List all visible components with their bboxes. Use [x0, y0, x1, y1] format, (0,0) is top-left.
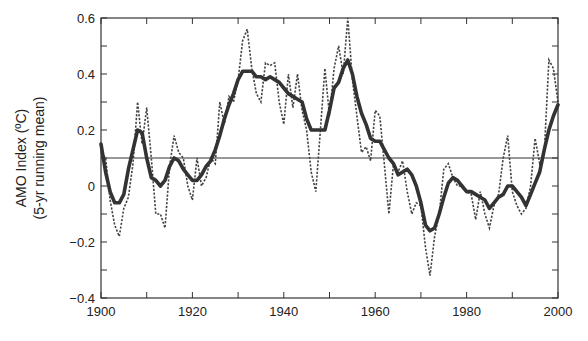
y-tick-label: −0.4 — [69, 291, 95, 306]
y-axis-title-line2: (5-yr running mean) — [31, 97, 47, 220]
y-tick-label: 0.4 — [77, 67, 95, 82]
x-tick-label: 1900 — [87, 304, 116, 319]
y-tick-label: 0 — [88, 179, 95, 194]
y-tick-label: −0.2 — [69, 235, 95, 250]
x-tick-label: 1960 — [361, 304, 390, 319]
y-tick-label: 0.2 — [77, 123, 95, 138]
y-axis-title: AMO Index (ºC) (5-yr running mean) — [13, 97, 47, 220]
running-mean-solid-line — [101, 60, 558, 231]
y-axis-title-line1: AMO Index (ºC) — [13, 109, 29, 207]
x-tick-label: 1920 — [178, 304, 207, 319]
x-tick-label: 1980 — [452, 304, 481, 319]
x-axis-tick-labels: 1900 1920 1940 1960 1980 2000 — [87, 304, 573, 319]
y-axis-tick-labels: 0.6 0.4 0.2 0 −0.2 −0.4 — [69, 11, 95, 306]
x-tick-label: 2000 — [544, 304, 573, 319]
y-tick-label: 0.6 — [77, 11, 95, 26]
amo-index-chart: 1900 1920 1940 1960 1980 2000 0.6 0.4 0.… — [0, 0, 588, 341]
annual-values-dotted-line — [101, 18, 558, 276]
x-tick-label: 1940 — [269, 304, 298, 319]
